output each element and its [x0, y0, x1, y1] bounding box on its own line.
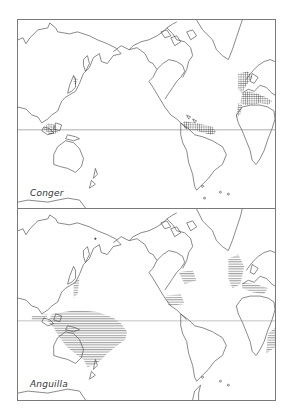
world-map-anguilla: [18, 209, 275, 400]
map-label-anguilla: Anguilla: [30, 379, 68, 389]
map-panel-conger: Conger: [17, 19, 276, 209]
anguilla-range-hatching: [32, 255, 275, 368]
world-map-conger: [18, 20, 275, 208]
map-label-conger: Conger: [30, 188, 64, 198]
conger-range-hatching: [44, 71, 272, 134]
distribution-maps-figure: Conger: [0, 0, 295, 420]
map-panel-anguilla: Anguilla: [17, 208, 276, 401]
